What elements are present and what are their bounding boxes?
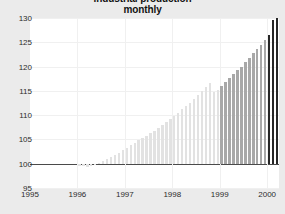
bar [189, 103, 191, 164]
bar [177, 113, 179, 164]
y-axis-tick-label: 100 [8, 159, 32, 168]
bar [209, 83, 211, 164]
bar [137, 140, 139, 163]
y-axis-tick-label: 125 [8, 38, 32, 47]
bar [134, 143, 136, 164]
bar [157, 128, 159, 164]
y-axis-tick-label: 110 [8, 111, 32, 120]
bar [205, 87, 207, 164]
x-axis-tick-label: 1996 [69, 190, 87, 199]
bar [122, 150, 124, 164]
bar [161, 125, 163, 164]
bar [141, 138, 143, 164]
bar [106, 159, 108, 164]
bar [244, 62, 246, 164]
bar [213, 92, 215, 164]
bar [145, 136, 147, 164]
chart-container: industrial production monthly (1995 = 10… [0, 0, 285, 214]
bar [197, 95, 199, 164]
y-axis-tick-label: 120 [8, 62, 32, 71]
bar [220, 86, 222, 163]
y-axis-tick-label: 105 [8, 135, 32, 144]
bar [173, 116, 175, 164]
gridline-horizontal [30, 188, 279, 189]
x-axis-tick-label: 2000 [258, 190, 276, 199]
bar [94, 164, 96, 165]
y-axis-tick-label: 115 [8, 86, 32, 95]
bar [118, 153, 120, 164]
bar [130, 145, 132, 163]
bar [256, 49, 258, 164]
x-axis-tick-label: 1998 [163, 190, 181, 199]
bar [126, 148, 128, 164]
bar [98, 163, 100, 164]
bar [90, 164, 92, 166]
chart-title-block: industrial production monthly [0, 0, 285, 15]
y-axis-tick-label: 130 [8, 14, 32, 23]
bar [268, 35, 270, 163]
bar [272, 20, 274, 163]
bar [201, 91, 203, 164]
x-axis-tick-label: 1997 [116, 190, 134, 199]
bar [228, 78, 230, 163]
bar [102, 161, 104, 164]
bar [153, 131, 155, 164]
bar [110, 157, 112, 164]
bar [217, 90, 219, 164]
bar [149, 133, 151, 164]
bar [264, 40, 266, 163]
bar [260, 45, 262, 164]
bar [236, 70, 238, 163]
bar [78, 164, 80, 166]
bar [169, 119, 171, 164]
bar [181, 109, 183, 163]
bar [193, 99, 195, 164]
bar [232, 74, 234, 163]
chart-subtitle: monthly [0, 4, 285, 15]
bar [252, 53, 254, 163]
bar-series [30, 18, 279, 188]
bar [114, 155, 116, 164]
plot-area [30, 18, 279, 188]
bar [185, 106, 187, 164]
x-axis-tick-label: 1999 [211, 190, 229, 199]
bar [224, 82, 226, 164]
bar [82, 164, 84, 166]
bar [240, 67, 242, 164]
x-axis-tick-label: 1995 [21, 190, 39, 199]
bar [276, 18, 278, 163]
bar [248, 58, 250, 164]
bar [165, 122, 167, 164]
bar [86, 164, 88, 167]
